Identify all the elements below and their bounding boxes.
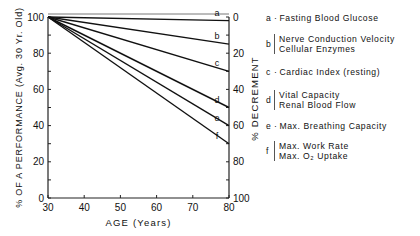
legend-label: Fasting Blood Glucose [279,13,378,23]
legend-key: c [266,67,274,77]
legend-label: Max. O₂ Uptake [279,151,349,161]
legend-label: Cardiac Index (resting) [279,67,380,77]
legend-label: Cellular Enzymes [279,44,395,54]
series-line-c [48,17,229,71]
y-right-tick-label: 100 [233,193,250,204]
x-tick-label: 50 [115,202,127,213]
series-label-b: b [214,31,219,41]
series-line-e [48,17,229,126]
y-right-axis-label: % DECREMENT [249,56,260,140]
legend-key: a [266,13,274,23]
series-line-a [48,17,229,21]
legend: a · Fasting Blood Glucose b Nerve Conduc… [266,11,420,161]
x-tick-label: 70 [187,202,199,213]
y-right-tick-label: 0 [233,12,239,23]
y-axis-label: % OF A PERFORMANCE (Avg. 30 Yr. Old) [14,7,24,208]
legend-label: Renal Blood Flow [279,100,356,110]
x-tick-label: 80 [223,202,235,213]
y-right-tick-label: 80 [233,156,245,167]
legend-item-c: c · Cardiac Index (resting) [266,65,420,79]
y-tick-label: 60 [33,84,45,95]
legend-item-b: b Nerve Conduction Velocity Cellular Enz… [266,34,420,54]
legend-label: Vital Capacity [279,90,356,100]
x-tick-label: 60 [151,202,163,213]
legend-item-d: d Vital Capacity Renal Blood Flow [266,90,420,110]
legend-key: d [266,95,274,105]
legend-item-f: f Max. Work Rate Max. O₂ Uptake [266,141,420,161]
series-label-e: e [214,113,219,123]
legend-label: Max. Work Rate [279,141,349,151]
y-tick-label: 80 [33,48,45,59]
y-tick-label: 20 [33,156,45,167]
y-right-tick-label: 60 [233,120,245,131]
legend-label: Max. Breathing Capacity [279,121,386,131]
x-tick-label: 30 [42,202,54,213]
legend-item-e: e · Max. Breathing Capacity [266,119,420,133]
series-line-f [48,17,229,144]
legend-label: Nerve Conduction Velocity [279,34,395,44]
series-label-d: d [214,95,219,105]
series-label-a: a [214,8,219,18]
series-label-c: c [215,58,220,68]
legend-item-a: a · Fasting Blood Glucose [266,11,420,25]
y-right-tick-label: 20 [233,48,245,59]
legend-key: f [266,146,274,156]
legend-key: b [266,39,274,49]
x-tick-label: 40 [79,202,91,213]
y-right-tick-label: 40 [233,84,245,95]
y-tick-label: 40 [33,120,45,131]
x-axis-label: AGE (Years) [105,217,171,228]
legend-key: e [266,121,274,131]
y-tick-label: 100 [27,12,44,23]
